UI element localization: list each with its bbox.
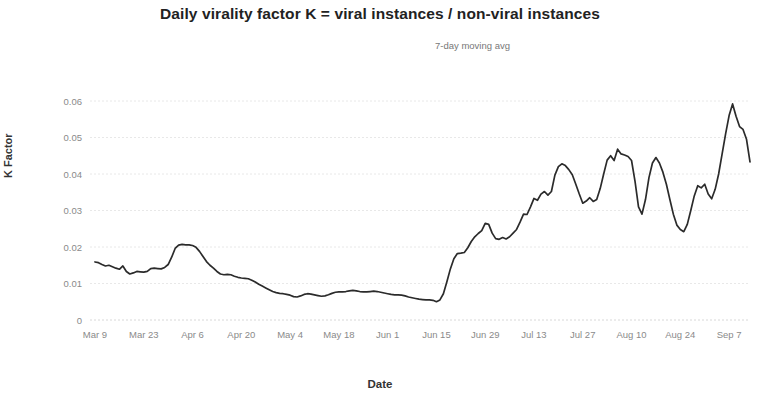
gridlines-group (90, 101, 750, 320)
y-tick-label: 0.05 (64, 132, 83, 143)
x-tick-label: Apr 20 (227, 329, 255, 340)
y-tick-label: 0.01 (64, 278, 83, 289)
x-tick-label: Jul 27 (570, 329, 595, 340)
y-tick-label: 0.04 (64, 169, 83, 180)
y-tick-label: 0.06 (64, 96, 83, 107)
x-tick-label: May 18 (323, 329, 354, 340)
x-tick-label: Mar 9 (83, 329, 107, 340)
y-tick-label: 0 (77, 315, 82, 326)
y-tick-label: 0.02 (64, 242, 83, 253)
x-tick-label: May 4 (277, 329, 303, 340)
x-tick-label: Apr 6 (181, 329, 204, 340)
y-tick-label: 0.03 (64, 205, 83, 216)
x-tick-label: Jun 1 (376, 329, 399, 340)
y-tick-labels-group: 00.010.020.030.040.050.06 (64, 96, 83, 326)
x-tick-label: Aug 10 (616, 329, 646, 340)
series-line-k-factor (95, 104, 750, 302)
x-tick-label: Jun 29 (471, 329, 500, 340)
x-tick-label: Aug 24 (665, 329, 695, 340)
x-tick-label: Jun 15 (422, 329, 451, 340)
x-tick-labels-group: Mar 9Mar 23Apr 6Apr 20May 4May 18Jun 1Ju… (83, 329, 742, 340)
x-tick-label: Sep 7 (717, 329, 742, 340)
chart-container: Daily virality factor K = viral instance… (0, 0, 760, 399)
x-tick-label: Jul 13 (521, 329, 546, 340)
plot-area: 00.010.020.030.040.050.06 Mar 9Mar 23Apr… (0, 0, 760, 399)
x-tick-label: Mar 23 (129, 329, 159, 340)
